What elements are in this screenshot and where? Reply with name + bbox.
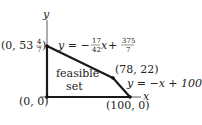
- upper-eq-c1-den: 42: [92, 46, 101, 54]
- vertex-top-frac-den: 7: [37, 46, 41, 54]
- vertex-x-intercept-label: (100, 0): [106, 99, 150, 112]
- upper-eq-c2-den: 7: [126, 46, 130, 54]
- upper-eq-var: x: [101, 39, 108, 52]
- region-label-line2: set: [66, 80, 83, 93]
- vertex-top-label: (0, 53: [1, 39, 33, 52]
- vertex-top-label-close: ): [42, 39, 46, 52]
- lower-equation: y = −x + 100: [126, 77, 202, 90]
- y-axis-label: y: [42, 8, 50, 21]
- region-label-line1: feasible: [56, 67, 99, 80]
- upper-eq-c2-num: 375: [122, 37, 135, 45]
- vertex-origin-label: (0, 0): [19, 95, 49, 108]
- upper-eq-plus: +: [108, 39, 117, 52]
- vertex-corner: [111, 76, 115, 80]
- vertex-corner-label: (78, 22): [115, 63, 159, 76]
- upper-equation-lhs: y = −: [57, 39, 90, 52]
- upper-eq-c1-num: 17: [92, 37, 101, 45]
- feasible-set-diagram: y x (0, 53 4 7 ) y = − 17 42 x + 375 7 f…: [0, 0, 202, 125]
